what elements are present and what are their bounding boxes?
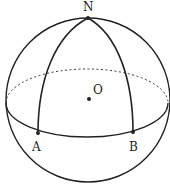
label-N: N — [83, 0, 94, 14]
label-B: B — [129, 140, 138, 154]
sphere-diagram: N O A B — [0, 0, 170, 189]
sphere-figure: N O A B — [0, 0, 170, 189]
meridian-NB — [88, 18, 133, 132]
label-A: A — [31, 140, 41, 154]
point-N — [86, 16, 90, 20]
label-O: O — [93, 83, 103, 97]
point-A — [36, 131, 40, 135]
point-O — [87, 97, 91, 101]
meridian-NA — [38, 18, 88, 133]
point-B — [131, 130, 135, 134]
equator-back-dashed — [6, 69, 168, 103]
equator-front — [6, 103, 168, 137]
